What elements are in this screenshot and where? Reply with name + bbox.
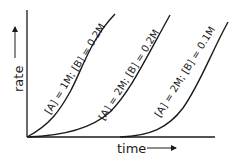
x-axis-label: time xyxy=(117,141,146,156)
curve-1-label: [A] = 1M; [B] = 0.2M xyxy=(42,21,107,116)
rate-time-diagram: rate time [A] = 1M; [B] = 0.2M [A] = 2M;… xyxy=(0,0,238,159)
curve-2-label: [A] = 2M; [B] = 0.2M xyxy=(96,27,161,122)
y-axis-label: rate xyxy=(11,66,26,92)
